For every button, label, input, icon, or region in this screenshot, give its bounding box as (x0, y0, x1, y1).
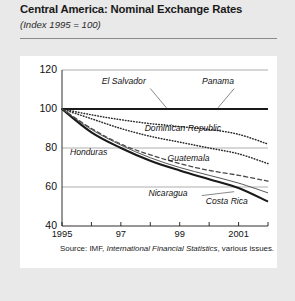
y-axis-label-60: 60 (33, 180, 57, 192)
leader-line-el-salvador (150, 89, 166, 108)
title-divider (20, 38, 277, 39)
source-note: Source: IMF, International Financial Sta… (60, 244, 274, 253)
series-line-honduras (62, 109, 268, 181)
source-italic: International Financial Statistics (107, 244, 218, 253)
leader-line-panama (218, 89, 234, 108)
source-prefix: Source: IMF, (60, 244, 104, 253)
y-axis-label-80: 80 (33, 141, 57, 153)
series-label-guatemala: Guatemala (168, 153, 210, 163)
y-axis-label-100: 100 (33, 102, 57, 114)
page-title: Central America: Nominal Exchange Rates (20, 3, 242, 15)
source-suffix: , various issues. (217, 244, 274, 253)
x-axis-label-1995: 1995 (45, 229, 79, 239)
series-label-costa-rica: Costa Rica (206, 196, 248, 206)
series-label-honduras: Honduras (70, 147, 107, 157)
series-label-el-salvador: El Salvador (102, 76, 146, 86)
page-subtitle: (Index 1995 = 100) (20, 19, 101, 30)
x-axis-label-1997: 97 (104, 229, 138, 239)
series-label-panama: Panama (202, 76, 234, 86)
x-axis-label-2001: 2001 (222, 229, 256, 239)
series-label-nicaragua: Nicaragua (148, 188, 187, 198)
y-axis-label-120: 120 (33, 63, 57, 75)
series-label-dominican-republic: Dominican Republic (145, 123, 221, 133)
figure-root: Central America: Nominal Exchange Rates … (0, 0, 295, 301)
chart-card: Source: IMF, International Financial Sta… (20, 56, 277, 268)
x-axis-label-1999: 99 (163, 229, 197, 239)
